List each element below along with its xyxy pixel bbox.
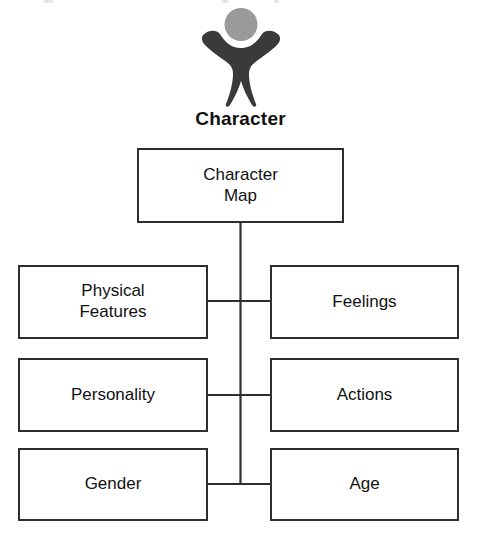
node-feelings[interactable]: Feelings bbox=[270, 265, 459, 339]
node-actions[interactable]: Actions bbox=[270, 358, 459, 432]
node-character-map[interactable]: Character Map bbox=[137, 148, 344, 223]
character-map-diagram: Character Character Map Physical Feature… bbox=[0, 0, 481, 542]
node-gender[interactable]: Gender bbox=[18, 448, 208, 521]
node-physical-features[interactable]: Physical Features bbox=[18, 265, 208, 339]
node-personality[interactable]: Personality bbox=[18, 358, 208, 432]
node-age[interactable]: Age bbox=[270, 448, 459, 521]
